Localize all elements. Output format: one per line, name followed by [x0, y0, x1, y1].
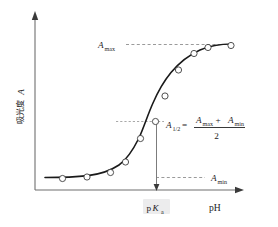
data-point-marker	[205, 44, 211, 50]
data-point-marker	[162, 93, 168, 99]
y-axis-title-group: 吸光度 A	[15, 89, 26, 124]
absorbance-ph-titration-figure: 吸光度 A A max A min A 1/2 = A max + A min	[0, 0, 278, 227]
data-point-marker	[191, 50, 197, 56]
y-axis-title-cjk: 吸光度	[15, 100, 25, 124]
axis-group	[32, 11, 244, 193]
data-point-marker	[152, 118, 158, 124]
equation-plus-sign: +	[216, 115, 221, 125]
ahalf-equation-group: A 1/2 = A max + A min 2	[165, 115, 245, 141]
x-axis-arrow-icon	[235, 187, 244, 194]
amax-symbol: A	[97, 40, 104, 50]
data-point-marker	[84, 174, 90, 180]
pka-prefix: p	[147, 203, 152, 213]
pka-subscript: a	[161, 209, 164, 215]
pka-symbol: K	[152, 203, 160, 213]
amin-subscript: min	[218, 179, 227, 185]
data-point-marker	[175, 67, 181, 73]
equation-numerator-right-symbol: A	[227, 115, 234, 125]
data-point-marker	[59, 175, 65, 181]
equation-numerator-left-symbol: A	[195, 115, 202, 125]
equation-numerator-right-subscript: min	[235, 121, 244, 127]
ahalf-subscript: 1/2	[173, 126, 181, 132]
x-axis-title: pH	[209, 202, 221, 213]
data-point-marker	[228, 42, 234, 48]
amin-symbol: A	[210, 173, 217, 183]
equation-denominator: 2	[214, 131, 219, 141]
data-point-marker	[137, 135, 143, 141]
data-point-marker	[122, 159, 128, 165]
ahalf-symbol: A	[165, 120, 172, 130]
pka-tick-label-group: p K a	[143, 199, 170, 215]
sigmoid-curve-group	[45, 44, 232, 178]
amax-subscript: max	[105, 46, 116, 52]
amin-label-group: A min	[210, 173, 227, 185]
equation-equals-sign: =	[182, 120, 187, 130]
data-point-marker	[107, 169, 113, 175]
y-axis-title-symbol: A	[16, 89, 26, 96]
equation-numerator-left-subscript: max	[203, 121, 214, 127]
data-markers-group	[59, 42, 234, 181]
y-axis-arrow-icon	[32, 11, 38, 20]
titration-curve	[45, 44, 232, 178]
amax-label-group: A max	[97, 40, 115, 52]
